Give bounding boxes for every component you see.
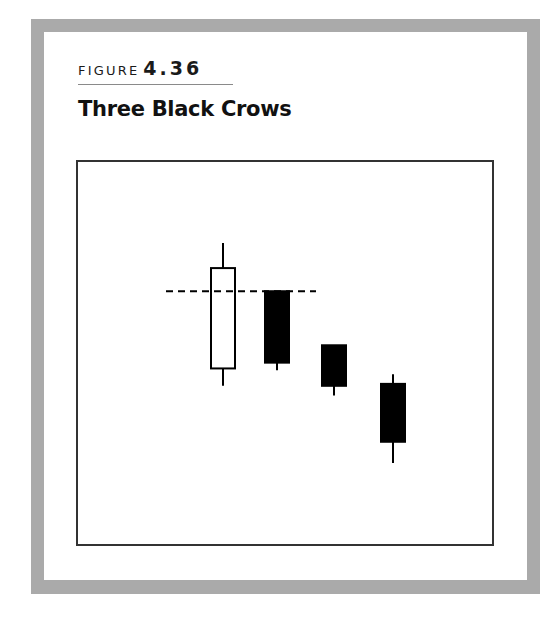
candle-bearish xyxy=(322,345,346,395)
candle-body xyxy=(322,345,346,386)
candles-group xyxy=(211,243,405,463)
candlestick-chart xyxy=(0,0,559,618)
candle-body xyxy=(265,291,289,362)
candle-bullish xyxy=(211,243,235,386)
candle-bearish xyxy=(265,291,289,370)
candle-body xyxy=(211,268,235,368)
candle-bearish xyxy=(381,374,405,463)
candle-body xyxy=(381,384,405,442)
